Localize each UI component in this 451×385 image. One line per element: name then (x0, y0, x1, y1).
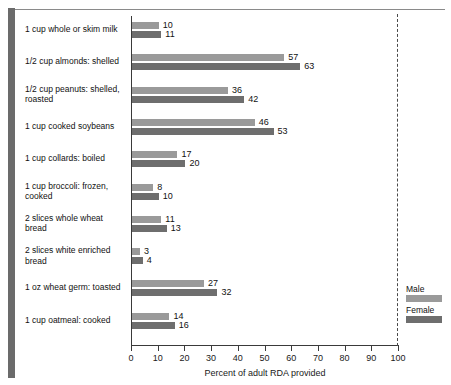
x-tick-30 (211, 346, 212, 351)
x-tick-90 (371, 346, 372, 351)
bar-male-9 (132, 313, 169, 320)
x-tick-10 (158, 346, 159, 351)
bar-value-male-3: 46 (259, 118, 269, 127)
bar-male-3 (132, 119, 255, 126)
bar-value-female-3: 53 (278, 127, 288, 136)
x-tick-label-80: 80 (332, 353, 358, 364)
bar-value-male-2: 36 (232, 86, 242, 95)
bar-female-5 (132, 193, 159, 200)
page-top-rule (15, 9, 445, 10)
category-label-4: 1 cup collards: boiled (25, 153, 129, 164)
category-label-3: 1 cup cooked soybeans (25, 121, 129, 132)
x-tick-20 (184, 346, 185, 351)
category-label-2: 1/2 cup peanuts: shelled, roasted (25, 84, 129, 105)
bar-male-5 (132, 184, 153, 191)
bar-female-1 (132, 63, 300, 70)
reference-line-100 (397, 14, 398, 346)
bar-value-female-7: 4 (147, 256, 152, 265)
bar-value-female-4: 20 (189, 159, 199, 168)
bar-value-female-8: 32 (221, 288, 231, 297)
bar-male-2 (132, 87, 228, 94)
bar-male-1 (132, 54, 284, 61)
bar-value-female-9: 16 (179, 321, 189, 330)
category-label-7: 2 slices white enriched bread (25, 245, 129, 266)
x-tick-label-50: 50 (252, 353, 278, 364)
x-tick-40 (238, 346, 239, 351)
category-label-1: 1/2 cup almonds: shelled (25, 56, 129, 67)
bar-female-4 (132, 160, 185, 167)
chart-legend: Male Female (406, 284, 446, 326)
legend-entry-male: Male (406, 284, 446, 302)
x-tick-80 (345, 346, 346, 351)
legend-swatch-female (406, 316, 442, 323)
legend-label-female: Female (406, 305, 446, 315)
x-tick-label-20: 20 (171, 353, 197, 364)
x-tick-label-70: 70 (305, 353, 331, 364)
bar-female-3 (132, 128, 274, 135)
bar-value-male-5: 8 (157, 183, 162, 192)
x-tick-label-60: 60 (278, 353, 304, 364)
category-label-0: 1 cup whole or skim milk (25, 24, 129, 35)
legend-entry-female: Female (406, 305, 446, 323)
bar-female-0 (132, 31, 161, 38)
x-tick-label-90: 90 (358, 353, 384, 364)
x-tick-0 (131, 346, 132, 351)
page-gutter-rule (8, 8, 15, 378)
category-label-9: 1 cup oatmeal: cooked (25, 315, 129, 326)
x-tick-label-30: 30 (198, 353, 224, 364)
bar-value-female-2: 42 (248, 95, 258, 104)
bar-male-4 (132, 151, 177, 158)
category-label-8: 1 oz wheat germ: toasted (25, 282, 129, 293)
bar-value-male-1: 57 (288, 53, 298, 62)
bar-male-8 (132, 280, 204, 287)
legend-label-male: Male (406, 284, 446, 294)
bar-male-7 (132, 248, 140, 255)
bar-male-0 (132, 22, 159, 29)
x-axis-title: Percent of adult RDA provided (131, 368, 399, 378)
x-tick-60 (291, 346, 292, 351)
bar-value-female-0: 11 (165, 30, 174, 39)
bar-value-female-6: 13 (171, 224, 181, 233)
x-tick-label-40: 40 (225, 353, 251, 364)
bar-female-9 (132, 322, 175, 329)
x-tick-70 (318, 346, 319, 351)
bar-female-7 (132, 257, 143, 264)
x-tick-label-0: 0 (118, 353, 144, 364)
x-tick-100 (398, 346, 399, 351)
x-tick-label-10: 10 (145, 353, 171, 364)
bar-value-male-8: 27 (208, 279, 218, 288)
bar-female-2 (132, 96, 244, 103)
bar-female-6 (132, 225, 167, 232)
x-tick-label-100: 100 (385, 353, 411, 364)
category-label-5: 1 cup broccoli: frozen, cooked (25, 181, 129, 202)
bar-value-female-1: 63 (304, 62, 314, 71)
bar-male-6 (132, 216, 161, 223)
bar-female-8 (132, 289, 217, 296)
x-tick-50 (265, 346, 266, 351)
category-label-6: 2 slices whole wheat bread (25, 213, 129, 234)
bar-value-female-5: 10 (163, 192, 173, 201)
legend-swatch-male (406, 295, 442, 302)
